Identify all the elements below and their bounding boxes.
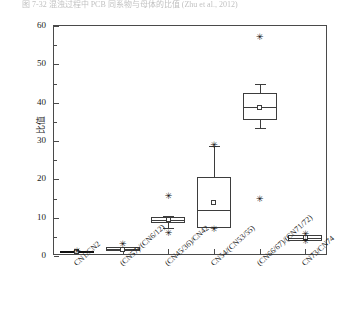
y-tick-major [54,256,59,257]
whisker-upper [260,84,261,93]
x-tick [260,249,261,254]
y-tick-label: 60 [37,21,46,30]
y-tick-minor [54,199,57,200]
y-tick-major [54,64,59,65]
outlier-marker: ✳ [165,193,172,200]
y-tick-minor [54,45,57,46]
y-tick-major [54,179,59,180]
x-tick [168,249,169,254]
figure-root: 图 7-32 混浊过程中 PCB 同系物与母体的比值 (Zhu et al., … [0,0,345,334]
box-mean-marker [211,200,216,205]
x-tick [214,249,215,254]
whisker-upper [214,146,215,177]
outlier-marker: ✳ [119,241,126,248]
y-tick-label: 20 [37,174,46,183]
y-tick-label: 40 [37,98,46,107]
y-tick-label: 30 [37,136,46,145]
y-tick-label: 0 [42,251,47,260]
y-tick-major [54,218,59,219]
whisker-lower [260,120,261,128]
y-tick-minor [54,160,57,161]
box-mean-marker [257,105,262,110]
y-tick-minor [54,84,57,85]
outlier-marker: ✳ [165,230,172,237]
outlier-marker: ✳ [256,196,263,203]
whisker-cap-upper [255,84,266,85]
box-mean-marker [166,217,171,222]
outlier-marker: ✳ [210,226,217,233]
outlier-marker: ✳ [210,142,217,149]
figure-caption: 图 7-32 混浊过程中 PCB 同系物与母体的比值 (Zhu et al., … [22,0,322,10]
y-tick-major [54,103,59,104]
y-tick-major [54,26,59,27]
y-tick-minor [54,122,57,123]
boxplot-layer: 0102030405060✳✳✳✳✳✳✳✳✳✳ [54,26,326,254]
y-tick-label: 50 [37,59,46,68]
plot-area: 0102030405060✳✳✳✳✳✳✳✳✳✳ [53,25,327,255]
whisker-cap-lower [255,128,266,129]
y-tick-major [54,141,59,142]
box-median [197,210,231,211]
x-tick [305,249,306,254]
outlier-marker: ✳ [302,238,309,245]
y-tick-label: 10 [37,213,46,222]
y-tick-minor [54,237,57,238]
outlier-marker: ✳ [256,34,263,41]
